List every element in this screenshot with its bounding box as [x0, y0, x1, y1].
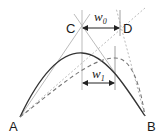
- w0-label: w0: [94, 9, 107, 26]
- w1-label: w1: [92, 66, 105, 83]
- solid-arch-curve: [20, 53, 145, 117]
- point-label-c: C: [66, 21, 75, 36]
- point-label-b: B: [147, 119, 156, 134]
- point-label-a: A: [9, 119, 18, 134]
- arch-diagram: w0 w1 A B C D: [0, 0, 164, 134]
- point-label-d: D: [123, 21, 132, 36]
